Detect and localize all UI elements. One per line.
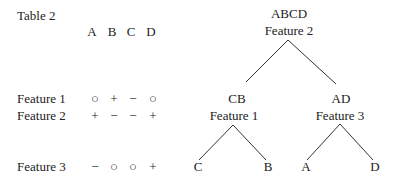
edge-cb-c	[199, 125, 233, 160]
leaf-b: B	[264, 159, 273, 174]
root-node-feature: Feature 2	[265, 23, 314, 38]
edge-ad-a	[307, 124, 340, 160]
root-node-set: ABCD	[271, 6, 307, 21]
leaf-d: D	[370, 159, 379, 174]
right-node-feature: Feature 3	[316, 108, 365, 123]
leaf-c: C	[194, 159, 203, 174]
right-node-set: AD	[332, 91, 351, 106]
leaf-a: A	[301, 159, 310, 174]
edge-cb-b	[233, 125, 266, 160]
edge-root-left	[246, 40, 288, 82]
edge-ad-d	[340, 124, 373, 160]
left-node-set: CB	[228, 91, 245, 106]
edge-root-right	[288, 40, 336, 84]
left-node-feature: Feature 1	[210, 108, 259, 123]
